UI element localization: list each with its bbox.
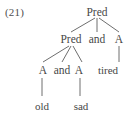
edge-pred2-to-a3right	[73, 46, 82, 62]
edge-pred2-to-a3left	[43, 46, 69, 62]
tree-leaf-tired: tired	[98, 64, 118, 76]
tree-leaf-sad: sad	[74, 100, 89, 112]
tree-node-pred-level2: Pred	[60, 33, 81, 45]
syntax-tree-figure: (21) Pred Pred and A A and A tired old s…	[0, 0, 137, 117]
tree-node-a-right-level3: A	[75, 64, 83, 76]
edge-pred2-to-and3	[62, 46, 71, 62]
tree-node-and-level2: and	[89, 33, 106, 45]
tree-edges-layer	[0, 0, 137, 117]
edge-root-to-pred2	[71, 18, 95, 32]
edge-group	[42, 18, 119, 96]
edge-root-to-a2	[99, 18, 119, 32]
tree-node-root: Pred	[86, 6, 107, 18]
tree-node-a-level2: A	[115, 33, 123, 45]
tree-leaf-old: old	[35, 100, 49, 112]
tree-node-and-level3: and	[54, 64, 71, 76]
tree-node-a-left-level3: A	[39, 64, 47, 76]
